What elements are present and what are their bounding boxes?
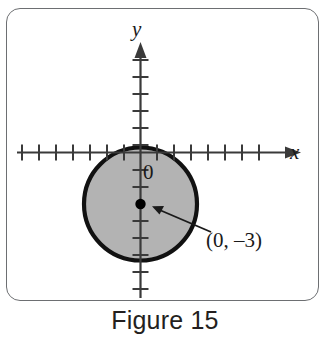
- y-axis-label: y: [130, 17, 142, 41]
- coordinate-plot: x y 0 (0, –3): [0, 0, 330, 310]
- x-axis-label: x: [289, 140, 300, 164]
- y-axis-arrowhead: [135, 42, 147, 58]
- origin-label: 0: [143, 160, 154, 184]
- figure-caption: Figure 15: [0, 306, 330, 335]
- figure-root: x y 0 (0, –3) Figure 15: [0, 0, 330, 355]
- coordinate-plane-svg: x y 0 (0, –3): [0, 0, 330, 310]
- center-point-marker: [135, 199, 145, 209]
- center-point-label: (0, –3): [206, 228, 262, 252]
